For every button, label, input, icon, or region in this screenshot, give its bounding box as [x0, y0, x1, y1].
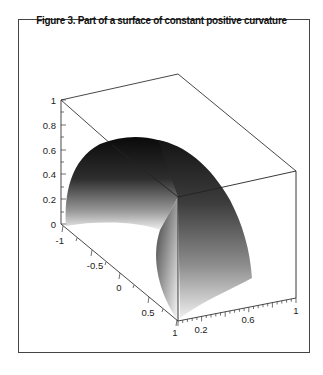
svg-text:0.5: 0.5 [141, 307, 154, 318]
svg-text:1: 1 [51, 95, 56, 106]
svg-text:0.2: 0.2 [43, 194, 56, 205]
svg-text:0: 0 [51, 219, 56, 230]
svg-text:0.6: 0.6 [43, 145, 56, 156]
svg-text:1: 1 [293, 305, 298, 316]
svg-text:-1: -1 [56, 235, 64, 246]
svg-text:0: 0 [116, 282, 121, 293]
svg-text:0.2: 0.2 [194, 324, 207, 335]
svg-text:1: 1 [172, 327, 177, 338]
svg-text:0.6: 0.6 [241, 314, 254, 325]
z-axis-labels: 0 0.2 0.4 0.6 0.8 1 [43, 95, 56, 230]
z-axis [61, 100, 66, 224]
y-axis-labels: 0.2 0.6 1 [194, 305, 298, 335]
svg-text:0.8: 0.8 [43, 120, 56, 131]
svg-text:-0.5: -0.5 [87, 260, 103, 271]
surface-plot: 0 0.2 0.4 0.6 0.8 1 -1 -0.5 0 0.5 1 [0, 0, 323, 375]
svg-text:0.4: 0.4 [43, 169, 56, 180]
